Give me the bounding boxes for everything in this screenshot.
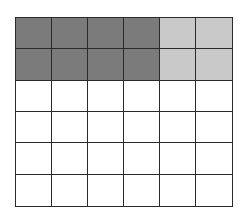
grid-cell-empty [196, 81, 232, 112]
grid-cell-empty [16, 81, 52, 112]
grid-cell-dark [124, 49, 160, 80]
grid-cell-light [196, 18, 232, 49]
grid-cell-empty [124, 81, 160, 112]
grid-cell-empty [52, 81, 88, 112]
grid-cell-light [160, 18, 196, 49]
grid-cell-empty [160, 143, 196, 174]
grid-cell-dark [16, 49, 52, 80]
grid-cell-empty [124, 143, 160, 174]
grid-cell-empty [196, 175, 232, 206]
grid-cell-empty [88, 175, 124, 206]
grid-cell-empty [52, 143, 88, 174]
grid-cell-empty [52, 175, 88, 206]
grid-cell-light [196, 49, 232, 80]
grid-cell-empty [196, 112, 232, 143]
fraction-grid [15, 17, 233, 207]
grid-cell-empty [160, 81, 196, 112]
grid-cell-light [160, 49, 196, 80]
grid-cell-empty [88, 112, 124, 143]
grid-cell-dark [52, 49, 88, 80]
grid-cell-dark [88, 18, 124, 49]
grid-cell-empty [16, 143, 52, 174]
grid-cell-empty [52, 112, 88, 143]
grid-cell-empty [88, 81, 124, 112]
grid-cell-dark [52, 18, 88, 49]
grid-cell-empty [88, 143, 124, 174]
grid-cell-dark [88, 49, 124, 80]
grid-cell-empty [196, 143, 232, 174]
grid-cell-empty [16, 175, 52, 206]
grid-cell-empty [16, 112, 52, 143]
grid-cell-dark [124, 18, 160, 49]
grid-cell-empty [124, 175, 160, 206]
grid-cell-empty [160, 175, 196, 206]
grid-cell-empty [124, 112, 160, 143]
grid-cell-dark [16, 18, 52, 49]
grid-cell-empty [160, 112, 196, 143]
